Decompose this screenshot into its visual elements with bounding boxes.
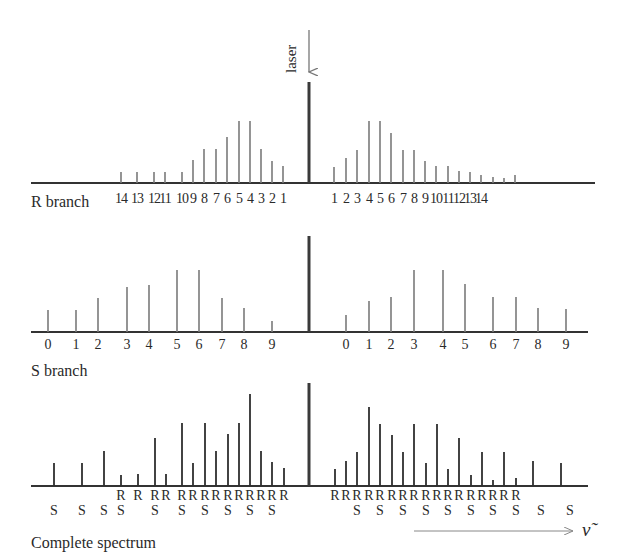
r-line-marker: R: [133, 488, 143, 503]
s-line-marker: S: [537, 503, 545, 518]
s-branch-j-label: 4: [146, 337, 153, 352]
r-branch-j-label: 6: [388, 191, 395, 206]
s-branch-j-label: 0: [343, 337, 350, 352]
r-branch-j-label: 2: [343, 191, 350, 206]
s-branch-j-label: 5: [462, 337, 469, 352]
s-line-marker: S: [353, 503, 361, 518]
r-line-marker: R: [432, 488, 442, 503]
r-branch-j-label: 10: [430, 191, 443, 206]
r-line-marker: R: [267, 488, 277, 503]
s-line-marker: S: [268, 503, 276, 518]
laser-label: laser: [283, 45, 299, 73]
r-line-marker: R: [256, 488, 266, 503]
r-line-marker: R: [477, 488, 487, 503]
s-line-marker: S: [224, 503, 232, 518]
s-branch-j-label: 6: [490, 337, 497, 352]
r-branch-j-label: 3: [258, 191, 265, 206]
r-branch-j-label: 13: [131, 191, 144, 206]
r-line-marker: R: [352, 488, 362, 503]
r-line-marker: R: [454, 488, 464, 503]
r-line-marker: R: [245, 488, 255, 503]
r-line-marker: R: [421, 488, 431, 503]
s-line-marker: S: [100, 503, 108, 518]
r-line-marker: R: [116, 488, 126, 503]
r-line-marker: R: [375, 488, 385, 503]
r-line-marker: R: [330, 488, 340, 503]
r-branch-j-label: 14: [115, 191, 128, 206]
s-line-marker: S: [151, 503, 159, 518]
r-branch-j-label: 2: [269, 191, 276, 206]
s-line-marker: S: [246, 503, 254, 518]
r-branch-j-label: 5: [377, 191, 384, 206]
r-branch-j-label: 14: [475, 191, 488, 206]
r-line-marker: R: [211, 488, 221, 503]
r-branch-j-label: 1: [331, 191, 338, 206]
r-line-marker: R: [499, 488, 509, 503]
r-branch-j-label: 8: [411, 191, 418, 206]
s-line-marker: S: [376, 503, 384, 518]
wavenumber-axis-indicator: ν̃: [414, 519, 598, 540]
raman-spectrum-diagram: laser 1413121110987654321123456789101112…: [0, 0, 618, 557]
s-line-marker: S: [467, 503, 475, 518]
r-line-marker: R: [188, 488, 198, 503]
r-branch-j-label: 7: [213, 191, 220, 206]
r-line-marker: R: [200, 488, 210, 503]
r-branch-j-label: 4: [247, 191, 254, 206]
s-line-marker: S: [512, 503, 520, 518]
r-line-marker: R: [177, 488, 187, 503]
s-branch-j-label: 3: [124, 337, 131, 352]
r-line-marker: R: [341, 488, 351, 503]
s-branch-panel: 01234567890123456789: [31, 236, 588, 352]
r-line-marker: R: [364, 488, 374, 503]
s-branch-j-label: 7: [513, 337, 520, 352]
r-line-marker: R: [161, 488, 171, 503]
r-branch-j-label: 11: [159, 191, 171, 206]
s-line-marker: S: [178, 503, 186, 518]
r-branch-title: R branch: [31, 193, 89, 210]
r-line-marker: R: [466, 488, 476, 503]
s-line-marker: S: [78, 503, 86, 518]
r-line-marker: R: [409, 488, 419, 503]
r-line-marker: R: [488, 488, 498, 503]
s-line-marker: S: [444, 503, 452, 518]
r-branch-panel: 14131211109876543211234567891011121314: [31, 82, 595, 206]
s-branch-j-label: 5: [174, 337, 181, 352]
s-branch-j-label: 2: [95, 337, 102, 352]
r-branch-j-label: 8: [201, 191, 208, 206]
wavenumber-symbol: ν̃: [582, 519, 598, 540]
s-branch-j-label: 4: [440, 337, 447, 352]
s-branch-j-label: 9: [563, 337, 570, 352]
s-branch-j-label: 8: [241, 337, 248, 352]
complete-spectrum-panel: RRRRRRRRRRRRRRRRRRRRRRRRRRRRRRRSSSSSSSSS…: [31, 383, 588, 518]
r-branch-j-label: 9: [422, 191, 429, 206]
r-line-marker: R: [387, 488, 397, 503]
r-line-marker: R: [443, 488, 453, 503]
s-line-marker: S: [201, 503, 209, 518]
laser-annotation: laser: [283, 30, 309, 73]
r-branch-j-label: 1: [280, 191, 287, 206]
s-branch-j-label: 6: [196, 337, 203, 352]
s-branch-j-label: 7: [219, 337, 226, 352]
s-branch-j-label: 1: [73, 337, 80, 352]
r-branch-j-label: 9: [190, 191, 197, 206]
s-branch-j-label: 2: [388, 337, 395, 352]
r-branch-j-label: 5: [236, 191, 243, 206]
r-line-marker: R: [279, 488, 289, 503]
s-line-marker: S: [50, 503, 58, 518]
r-branch-j-label: 3: [354, 191, 361, 206]
s-branch-j-label: 8: [535, 337, 542, 352]
s-branch-j-label: 0: [45, 337, 52, 352]
r-branch-j-label: 6: [224, 191, 231, 206]
s-line-marker: S: [566, 503, 574, 518]
r-line-marker: R: [398, 488, 408, 503]
s-line-marker: S: [422, 503, 430, 518]
r-line-marker: R: [234, 488, 244, 503]
s-branch-title: S branch: [31, 362, 87, 379]
r-line-marker: R: [150, 488, 160, 503]
r-branch-j-label: 4: [366, 191, 373, 206]
s-line-marker: S: [117, 503, 125, 518]
complete-spectrum-title: Complete spectrum: [31, 534, 156, 552]
r-line-marker: R: [511, 488, 521, 503]
s-line-marker: S: [399, 503, 407, 518]
s-branch-j-label: 3: [411, 337, 418, 352]
